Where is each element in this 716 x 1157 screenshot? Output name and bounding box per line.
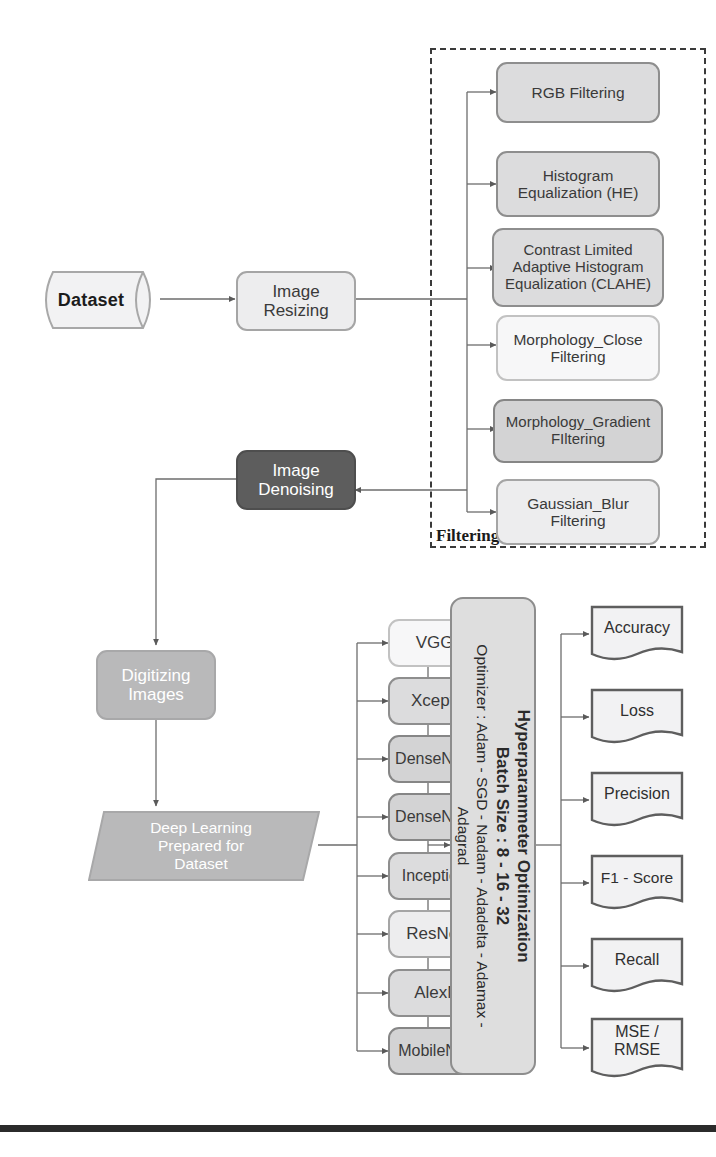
digitizing-images-label-line2: Images	[128, 685, 184, 704]
filter-label-line3: Equalization (CLAHE)	[505, 276, 651, 293]
image-resizing-label-line1: Image	[272, 282, 319, 301]
metric-doc-loss[interactable]: Loss	[589, 687, 685, 749]
metric-label: Precision	[589, 770, 685, 818]
hyperparameter-text-block: Hyperparammeter Optimization Batch Size …	[454, 644, 533, 1027]
metric-label: Recall	[589, 936, 685, 984]
metric-doc-f1-score[interactable]: F1 - Score	[589, 853, 685, 915]
image-denoising-box[interactable]: Image Denoising	[236, 450, 356, 510]
filter-label-line2: Adaptive Histogram	[513, 259, 644, 276]
flowchart-canvas: Filtering RGB Filtering Histogram Equali…	[0, 0, 716, 1157]
dl-label-line1: Deep Learning	[150, 819, 252, 837]
hyperparameter-line1: Hyperparammeter Optimization	[513, 644, 533, 1027]
metric-label-line1: Recall	[615, 951, 659, 969]
filter-box-morphology-gradient[interactable]: Morphology_Gradient FIltering	[493, 399, 663, 463]
filter-label-line2: Equalization (HE)	[518, 184, 639, 201]
metric-label-line1: F1 - Score	[601, 869, 673, 886]
filter-label-line2: Filtering	[550, 512, 605, 529]
metric-label-line1: Precision	[604, 785, 670, 803]
dataset-cylinder[interactable]: Dataset	[36, 261, 160, 339]
metric-label-line1: MSE /	[615, 1023, 659, 1041]
image-resizing-box[interactable]: Image Resizing	[236, 271, 356, 331]
hyperparameter-line4: Adagrad	[454, 644, 472, 1027]
deep-learning-dataset-parallelogram[interactable]: Deep Learning Prepared for Dataset	[88, 810, 320, 882]
metric-label: MSE / RMSE	[589, 1016, 685, 1066]
image-denoising-label-line2: Denoising	[258, 480, 334, 499]
metric-doc-accuracy[interactable]: Accuracy	[589, 604, 685, 666]
hyperparameter-optimization-box[interactable]: Hyperparammeter Optimization Batch Size …	[450, 597, 536, 1075]
dl-label-line3: Dataset	[174, 855, 227, 873]
hyperparameter-line2: Batch Size : 8 - 16 - 32	[492, 644, 512, 1027]
filter-label-line1: Contrast Limited	[523, 242, 632, 259]
metric-doc-recall[interactable]: Recall	[589, 936, 685, 998]
metric-label-line1: Loss	[620, 702, 654, 720]
dl-label-line2: Prepared for	[158, 837, 244, 855]
filter-box-gaussian-blur[interactable]: Gaussian_Blur Filtering	[496, 479, 660, 545]
image-denoising-label-line1: Image	[272, 461, 319, 480]
metric-label-line1: Accuracy	[604, 619, 670, 637]
filter-label-line1: RGB Filtering	[531, 84, 624, 101]
filter-box-rgb-filtering[interactable]: RGB Filtering	[496, 62, 660, 123]
filter-label-line2: Filtering	[550, 348, 605, 365]
filtering-group-label: Filtering	[436, 526, 499, 546]
digitizing-images-box[interactable]: Digitizing Images	[96, 650, 216, 720]
deep-learning-dataset-label: Deep Learning Prepared for Dataset	[88, 810, 320, 882]
footer-rule	[0, 1125, 716, 1132]
dataset-label: Dataset	[36, 261, 160, 339]
filter-label-line1: Morphology_Close	[513, 331, 642, 348]
filter-label-line1: Gaussian_Blur	[527, 495, 629, 512]
filter-box-morphology-close[interactable]: Morphology_Close Filtering	[496, 315, 660, 381]
filter-box-clahe[interactable]: Contrast Limited Adaptive Histogram Equa…	[492, 228, 664, 307]
metric-doc-mse-rmse[interactable]: MSE / RMSE	[589, 1016, 685, 1084]
metric-doc-precision[interactable]: Precision	[589, 770, 685, 832]
metric-label: Accuracy	[589, 604, 685, 652]
hyperparameter-line3: Optimizer : Adam - SGD - Nadam - Adadelt…	[473, 644, 491, 1027]
image-resizing-label-line2: Resizing	[263, 301, 328, 320]
metric-label-line2: RMSE	[614, 1041, 660, 1059]
filter-box-histogram-equalization[interactable]: Histogram Equalization (HE)	[496, 151, 660, 217]
filter-label-line1: Morphology_Gradient	[506, 414, 650, 431]
metric-label: Loss	[589, 687, 685, 735]
filter-label-line1: Histogram	[543, 167, 614, 184]
metric-label: F1 - Score	[589, 853, 685, 901]
digitizing-images-label-line1: Digitizing	[122, 666, 191, 685]
filter-label-line2: FIltering	[551, 431, 605, 448]
